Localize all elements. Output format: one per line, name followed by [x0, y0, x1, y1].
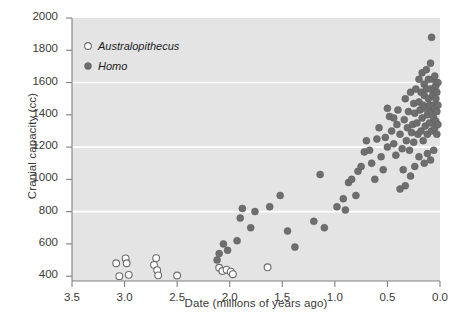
data-point-australopithecus: [113, 260, 120, 267]
data-point-homo: [224, 247, 231, 254]
data-point-homo: [397, 131, 404, 138]
data-point-australopithecus: [116, 273, 123, 280]
legend-marker-filled-circle-icon: [85, 63, 92, 70]
legend-label-australopithecus: Australopithecus: [98, 40, 179, 52]
data-point-homo: [397, 186, 404, 193]
data-point-homo: [251, 208, 258, 215]
data-point-homo: [427, 60, 434, 67]
data-point-homo: [382, 134, 389, 141]
data-point-homo: [368, 160, 375, 167]
data-point-australopithecus: [123, 260, 130, 267]
data-point-homo: [431, 73, 438, 80]
data-point-homo: [421, 160, 428, 167]
data-point-homo: [430, 147, 437, 154]
data-point-homo: [378, 153, 385, 160]
data-point-homo: [390, 140, 397, 147]
data-point-homo: [407, 173, 414, 180]
data-point-homo: [420, 137, 427, 144]
data-point-homo: [432, 95, 439, 102]
data-point-homo: [321, 224, 328, 231]
data-point-homo: [401, 116, 408, 123]
data-point-australopithecus: [264, 264, 271, 271]
data-point-homo: [428, 34, 435, 41]
data-point-homo: [405, 108, 412, 115]
data-point-homo: [388, 127, 395, 134]
data-point-homo: [234, 237, 241, 244]
data-point-homo: [266, 203, 273, 210]
data-point-homo: [214, 257, 221, 264]
plot-canvas: [0, 0, 461, 323]
data-point-homo: [333, 203, 340, 210]
data-point-australopithecus: [153, 255, 160, 262]
data-point-homo: [423, 66, 430, 73]
data-point-homo: [317, 171, 324, 178]
data-point-homo: [348, 176, 355, 183]
data-point-homo: [284, 227, 291, 234]
data-point-homo: [352, 192, 359, 199]
data-point-homo: [342, 207, 349, 214]
scatter-plot-figure: 400600800100012001400160018002000 3.53.0…: [0, 0, 461, 323]
data-point-homo: [371, 176, 378, 183]
data-point-homo: [394, 106, 401, 113]
legend-label-homo: Homo: [98, 60, 127, 72]
data-point-homo: [310, 218, 317, 225]
data-point-homo: [433, 131, 440, 138]
data-point-homo: [216, 250, 223, 257]
data-point-homo: [400, 166, 407, 173]
data-point-homo: [411, 163, 418, 170]
data-point-homo: [239, 205, 246, 212]
data-point-homo: [427, 156, 434, 163]
data-point-australopithecus: [229, 271, 236, 278]
data-point-homo: [424, 150, 431, 157]
data-point-homo: [384, 105, 391, 112]
data-point-homo: [376, 124, 383, 131]
data-point-homo: [434, 102, 441, 109]
data-point-homo: [363, 137, 370, 144]
data-point-homo: [415, 153, 422, 160]
data-point-homo: [220, 240, 227, 247]
y-tick-label-2000: 2000: [24, 10, 58, 22]
data-point-homo: [366, 147, 373, 154]
data-point-homo: [433, 89, 440, 96]
data-point-australopithecus: [125, 271, 132, 278]
data-point-homo: [408, 129, 415, 136]
data-point-homo: [403, 137, 410, 144]
data-point-homo: [277, 192, 284, 199]
data-point-homo: [373, 136, 380, 143]
data-point-homo: [393, 121, 400, 128]
data-point-homo: [410, 139, 417, 146]
data-point-homo: [434, 121, 441, 128]
data-point-homo: [434, 79, 441, 86]
y-axis-title: Cranial capacity (cc): [26, 26, 38, 266]
data-point-homo: [291, 244, 298, 251]
data-point-homo: [340, 195, 347, 202]
data-point-homo: [384, 144, 391, 151]
data-point-homo: [399, 145, 406, 152]
legend-marker-open-circle-icon: [85, 43, 92, 50]
data-point-homo: [433, 108, 440, 115]
x-axis-title: Date (millions of years ago): [72, 297, 440, 309]
data-point-homo: [247, 224, 254, 231]
y-tick-label-400: 400: [24, 268, 58, 280]
data-point-homo: [380, 166, 387, 173]
data-point-homo: [402, 95, 409, 102]
data-point-australopithecus: [174, 272, 181, 279]
data-point-homo: [390, 115, 397, 122]
data-point-homo: [392, 152, 399, 159]
data-point-homo: [358, 163, 365, 170]
data-point-australopithecus: [155, 272, 162, 279]
data-point-homo: [237, 215, 244, 222]
data-point-homo: [406, 147, 413, 154]
